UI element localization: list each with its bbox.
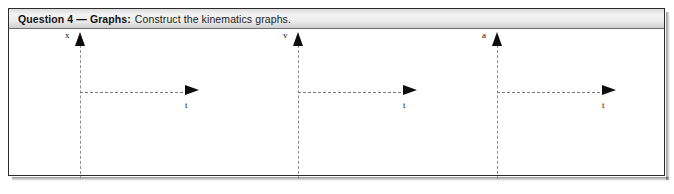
x-axis-label: t bbox=[403, 100, 406, 110]
arrow-up-icon bbox=[75, 32, 85, 46]
acceleration-time-graph: a t bbox=[468, 30, 668, 176]
arrow-right-icon bbox=[185, 85, 199, 95]
position-time-graph: x t bbox=[51, 30, 251, 176]
question-prompt: Construct the kinematics graphs. bbox=[135, 13, 291, 25]
question-header: Question 4 — Graphs: Construct the kinem… bbox=[9, 9, 664, 29]
vertical-axis bbox=[80, 40, 81, 179]
horizontal-axis bbox=[80, 92, 188, 93]
y-axis-label: a bbox=[482, 30, 486, 40]
box-shadow-bottom bbox=[12, 177, 669, 181]
question-box: Question 4 — Graphs: Construct the kinem… bbox=[8, 8, 665, 176]
velocity-time-graph: v t bbox=[269, 30, 469, 176]
arrow-up-icon bbox=[492, 32, 502, 46]
arrow-right-icon bbox=[602, 85, 616, 95]
horizontal-axis bbox=[298, 92, 406, 93]
x-axis-label: t bbox=[185, 100, 188, 110]
arrow-up-icon bbox=[293, 32, 303, 46]
vertical-axis bbox=[298, 40, 299, 179]
y-axis-label: v bbox=[283, 30, 288, 40]
question-title: Question 4 — Graphs: bbox=[18, 13, 131, 25]
horizontal-axis bbox=[497, 92, 605, 93]
question-screenshot: Question 4 — Graphs: Construct the kinem… bbox=[0, 0, 674, 194]
graph-area: x t v t a t bbox=[9, 30, 664, 175]
arrow-right-icon bbox=[403, 85, 417, 95]
x-axis-label: t bbox=[602, 100, 605, 110]
vertical-axis bbox=[497, 40, 498, 179]
y-axis-label: x bbox=[65, 30, 70, 40]
